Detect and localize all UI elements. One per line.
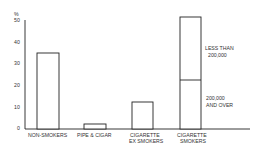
bar-cigarette-smokers — [180, 17, 201, 129]
y-tick-50: 50 — [14, 17, 20, 23]
bar-chart: % 50 40 30 20 10 0 NON-SMOKERS PIPE & CI… — [0, 0, 253, 155]
annotation-and-over-line1: 200,000 — [206, 95, 225, 101]
bar-non-smokers — [37, 53, 59, 129]
y-tick-40: 40 — [14, 39, 20, 45]
annotation-and-over-line2: AND OVER — [206, 102, 233, 108]
y-tick-30: 30 — [14, 60, 20, 66]
bar-pipe-cigar — [84, 124, 106, 129]
category-label-pipe-cigar: PIPE & CIGAR — [77, 132, 112, 138]
annotation-less-than-line1: LESS THAN — [205, 45, 234, 51]
category-label-smokers-line2: SMOKERS — [180, 138, 206, 144]
category-label-ex-smokers-line2: EX SMOKERS — [129, 138, 164, 144]
y-tick-20: 20 — [14, 82, 20, 88]
annotation-less-than-line2: 200,000 — [208, 52, 227, 58]
bar-cigarette-ex-smokers — [132, 102, 153, 129]
y-tick-0: 0 — [17, 125, 20, 131]
category-label-non-smokers: NON-SMOKERS — [28, 132, 68, 138]
y-tick-10: 10 — [14, 104, 20, 110]
